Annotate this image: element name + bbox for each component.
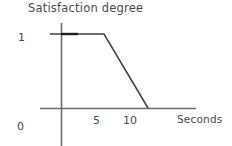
x-axis-tick-label-10: 10 bbox=[123, 115, 137, 126]
chart-title: Satisfaction degree bbox=[28, 3, 143, 15]
chart-figure: Satisfaction degree 1 0 5 10 Seconds bbox=[0, 0, 232, 146]
y-axis-tick-label-0: 0 bbox=[17, 121, 24, 132]
x-axis-label: Seconds bbox=[177, 114, 223, 125]
satisfaction-degree-line bbox=[50, 34, 148, 108]
x-axis-tick-label-5: 5 bbox=[93, 115, 100, 126]
y-axis-tick-label-1: 1 bbox=[18, 32, 25, 43]
